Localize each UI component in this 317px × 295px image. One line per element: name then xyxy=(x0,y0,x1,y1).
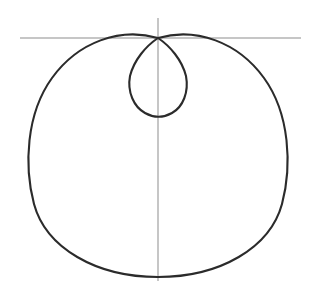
figure-container xyxy=(0,0,317,295)
limacon-figure xyxy=(0,0,317,295)
